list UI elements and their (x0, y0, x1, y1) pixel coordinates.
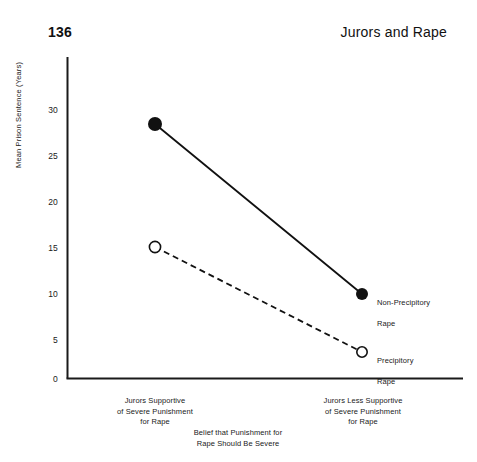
x-category-right-line3: for Rape (283, 417, 443, 428)
y-tick-label-20: 20 (32, 197, 58, 207)
y-tick-label-5: 5 (32, 335, 58, 345)
x-axis-title: Belief that Punishment for Rape Should B… (158, 428, 318, 449)
data-point-precipitory-left (149, 241, 160, 252)
series-label-non-precipitory-line2: Rape (377, 319, 430, 330)
x-category-label-right: Jurors Less Supportive of Severe Punishm… (283, 396, 443, 428)
data-point-non-precipitory-left (148, 117, 162, 131)
series-label-precipitory-line1: Precipitory (377, 356, 414, 367)
y-tick-label-15: 15 (32, 243, 58, 253)
series-label-non-precipitory-line1: Non-Precipitory (377, 298, 430, 309)
y-tick-label-30: 30 (32, 105, 58, 115)
data-point-precipitory-right (357, 347, 367, 357)
series-label-precipitory-line2: Rape (377, 377, 414, 388)
series-label-precipitory: Precipitory Rape (377, 345, 414, 398)
y-tick-label-10: 10 (32, 289, 58, 299)
x-axis-title-line1: Belief that Punishment for (158, 428, 318, 439)
x-category-right-line2: of Severe Punishment (283, 407, 443, 418)
x-category-left-line3: for Rape (75, 417, 235, 428)
y-tick-label-0: 0 (32, 374, 58, 384)
x-category-label-left: Jurors Supportive of Severe Punishment f… (75, 396, 235, 428)
y-tick-label-25: 25 (32, 151, 58, 161)
data-point-non-precipitory-right (356, 288, 368, 300)
x-category-left-line2: of Severe Punishment (75, 407, 235, 418)
series-label-non-precipitory: Non-Precipitory Rape (377, 287, 430, 340)
x-axis-title-line2: Rape Should Be Severe (158, 439, 318, 450)
series-line-precipitory (155, 247, 362, 352)
figure-chart: Mean Prison Sentence (Years) 30 25 20 15… (0, 0, 477, 462)
series-line-non-precipitory (155, 124, 362, 294)
y-axis-title: Mean Prison Sentence (Years) (14, 8, 23, 168)
x-category-right-line1: Jurors Less Supportive (283, 396, 443, 407)
x-category-left-line1: Jurors Supportive (75, 396, 235, 407)
